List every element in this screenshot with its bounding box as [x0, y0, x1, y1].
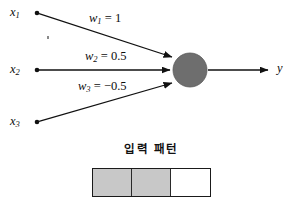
x2-label: x2 — [10, 63, 20, 76]
neuron-body — [173, 53, 207, 87]
output-label: y — [277, 62, 283, 75]
w1-label: w1 = 1 — [89, 12, 121, 25]
pattern-cell-3[interactable] — [171, 169, 210, 196]
x2-dot — [35, 68, 40, 73]
x3-label: x3 — [10, 115, 20, 128]
pattern-cell-2[interactable] — [132, 169, 171, 196]
w2-label: w2 = 0.5 — [85, 50, 127, 63]
x1-label: x1 — [10, 6, 20, 19]
pattern-cell-1[interactable] — [93, 169, 132, 196]
x1-dot — [35, 11, 40, 16]
scan-speck — [47, 36, 49, 39]
input-pattern-grid — [92, 168, 211, 197]
pattern-caption: 입력 패턴 — [0, 140, 303, 156]
x3-dot — [35, 120, 40, 125]
neuron-figure: x1 x2 x3 w1 = 1 w2 = 0.5 w3 = −0.5 y 입력 … — [0, 0, 303, 208]
w3-label: w3 = −0.5 — [78, 80, 127, 93]
